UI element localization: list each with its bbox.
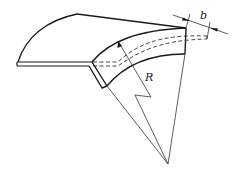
dim-arrow-right-icon xyxy=(210,28,218,32)
diagram-canvas: R b xyxy=(0,0,241,175)
plate-edge xyxy=(17,62,92,66)
sheet-outline xyxy=(18,14,186,62)
flange-drawing: R b xyxy=(0,0,241,175)
hidden-lines xyxy=(93,36,207,66)
radius-label: R xyxy=(144,71,153,84)
width-label: b xyxy=(200,9,207,22)
radius-line xyxy=(118,41,168,164)
